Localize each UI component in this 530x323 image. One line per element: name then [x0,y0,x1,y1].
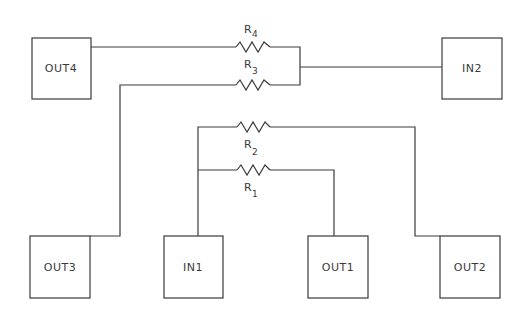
resistor-r1-index: 1 [252,189,258,199]
resistor-r3-index: 3 [252,66,258,76]
resistor-r2-index: 2 [252,147,258,157]
node-out1-label: OUT1 [322,261,354,274]
resistor-r4-letter: R [244,23,252,36]
wire-r2-out2 [270,127,440,236]
resistor-r1-letter: R [244,181,252,194]
node-out1: OUT1 [308,236,368,298]
circuit-diagram: R 4 R 3 R 2 R 1 OUT4 IN2 OUT3 IN1 OUT1 [0,0,530,323]
node-out2: OUT2 [440,236,500,298]
node-in2-label: IN2 [462,62,482,75]
node-in1: IN1 [164,236,223,298]
wire-r4-junction [270,47,300,85]
node-in2: IN2 [442,38,502,99]
node-out3: OUT3 [30,236,90,298]
node-out2-label: OUT2 [454,261,486,274]
resistor-r1-icon [237,165,270,175]
resistor-r3: R 3 [236,58,270,90]
node-in1-label: IN1 [183,261,203,274]
resistor-r4: R 4 [236,23,270,52]
resistor-r2-icon [237,122,270,132]
resistor-r3-letter: R [244,58,252,71]
resistor-r4-icon [236,42,270,52]
resistor-r2: R 2 [237,122,270,157]
wire-in1-r2 [198,127,237,236]
node-out3-label: OUT3 [44,261,76,274]
node-out4: OUT4 [32,38,91,99]
wire-r1-out1 [270,170,334,236]
node-out4-label: OUT4 [45,62,77,75]
resistor-r3-icon [236,80,270,90]
wire-out3-r3 [90,85,236,236]
resistor-r4-index: 4 [252,29,258,39]
resistor-r2-letter: R [244,138,252,151]
resistor-r1: R 1 [237,165,270,199]
